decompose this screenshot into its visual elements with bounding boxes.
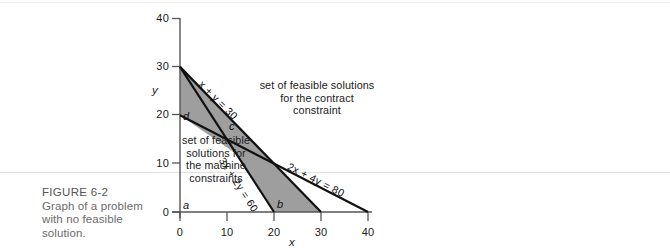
y-tick-label-30: 30 xyxy=(147,60,169,72)
graph-plot-area xyxy=(0,0,670,251)
x-tick-label-0: 0 xyxy=(168,226,192,238)
y-tick-label-40: 40 xyxy=(147,12,169,24)
vertex-label-d: d xyxy=(183,110,189,122)
y-tick-label-20: 20 xyxy=(147,108,169,120)
vertex-label-a: a xyxy=(183,199,189,211)
x-tick-label-20: 20 xyxy=(262,226,286,238)
x-tick-label-10: 10 xyxy=(215,226,239,238)
annotation-machine-constraints: set of feasible solutions for the machin… xyxy=(178,134,254,184)
x-tick-label-30: 30 xyxy=(309,226,333,238)
vertex-label-b: b xyxy=(277,198,283,210)
y-axis-label: y xyxy=(152,84,158,96)
y-tick-label-10: 10 xyxy=(147,157,169,169)
y-tick-label-0: 0 xyxy=(147,206,169,218)
figure-6-2: FIGURE 6-2 Graph of a problem with no fe… xyxy=(0,0,670,251)
x-axis-label: x xyxy=(289,236,295,248)
x-tick-label-40: 40 xyxy=(356,226,380,238)
annotation-contract-constraint: set of feasible solutions for the contra… xyxy=(256,79,378,117)
